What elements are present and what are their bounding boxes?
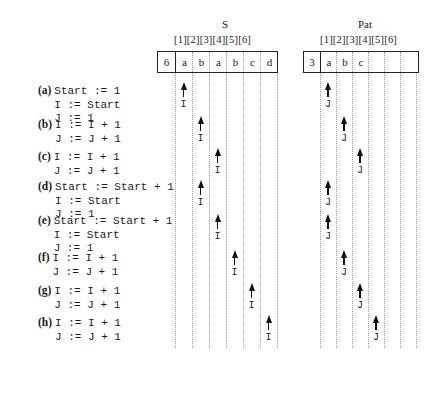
- arrow-up-icon: [373, 315, 379, 323]
- j-pointer-label: J: [370, 333, 382, 343]
- step-tag: (h): [38, 316, 55, 328]
- step-line: (h) J := J + 1: [38, 330, 121, 344]
- s-char-6: d: [261, 52, 278, 72]
- pat-char-1: a: [321, 52, 337, 72]
- code-line: I := I + 1: [54, 285, 120, 297]
- arrow-up-icon: [357, 148, 363, 156]
- i-pointer-label: I: [212, 232, 224, 242]
- s-guide-2: [209, 73, 210, 348]
- step-tag: (g): [38, 284, 54, 296]
- i-pointer: I: [195, 180, 207, 208]
- cell-divider: [192, 52, 193, 72]
- step-tag: (e): [38, 214, 54, 226]
- i-pointer-label: I: [195, 134, 207, 144]
- s-title: S: [200, 18, 250, 30]
- arrow-shaft: [183, 90, 184, 97]
- arrow-up-icon: [341, 250, 347, 258]
- arrow-shaft: [343, 258, 344, 265]
- step-g: (g) I := I + 1(g) J := J + 1: [38, 284, 120, 311]
- code-line: I := Start: [54, 229, 120, 241]
- j-pointer-label: J: [322, 100, 334, 110]
- step-line: (e) Start := Start + 1: [38, 214, 172, 228]
- code-line: Start := Start + 1: [54, 215, 173, 227]
- cell-divider: [336, 52, 337, 72]
- step-c: (c) I := I + 1(c) J := J + 1: [38, 150, 120, 177]
- s-char-4: b: [227, 52, 244, 72]
- cell-divider: [260, 52, 261, 72]
- step-line: (d) I := Start: [38, 194, 174, 208]
- code-line: I := I + 1: [52, 252, 118, 264]
- i-pointer-label: I: [229, 268, 241, 278]
- arrow-up-icon: [266, 315, 272, 323]
- pat-guide-5: [400, 73, 401, 348]
- cell-divider: [209, 52, 210, 72]
- s-indices: [1][2][3][4][5][6]: [174, 34, 251, 45]
- cell-divider: [400, 52, 401, 72]
- j-pointer: J: [354, 283, 366, 311]
- arrow-shaft: [200, 124, 201, 131]
- s-guide-6: [277, 73, 278, 348]
- code-line: J := J + 1: [54, 165, 120, 177]
- i-pointer: I: [229, 250, 241, 278]
- arrow-shaft: [200, 188, 201, 195]
- arrow-up-icon: [232, 250, 238, 258]
- arrow-up-icon: [325, 214, 331, 222]
- i-pointer-label: I: [263, 333, 275, 343]
- j-pointer: J: [322, 214, 334, 242]
- step-b: (b) I := I + 1(b) J := J + 1: [38, 118, 121, 145]
- arrow-up-icon: [215, 214, 221, 222]
- arrow-up-icon: [325, 82, 331, 90]
- j-pointer-label: J: [338, 134, 350, 144]
- step-line: (e) I := Start: [38, 228, 172, 242]
- i-pointer-label: I: [178, 100, 190, 110]
- arrow-shaft: [217, 156, 218, 163]
- pat-guide-2: [352, 73, 353, 348]
- arrow-shaft: [359, 156, 360, 163]
- code-line: I := I + 1: [54, 151, 120, 163]
- s-char-2: b: [193, 52, 210, 72]
- step-line: (c) I := I + 1: [38, 150, 120, 164]
- pat-guide-0: [320, 73, 321, 348]
- arrow-shaft: [375, 323, 376, 330]
- step-line: (c) J := J + 1: [38, 164, 120, 178]
- step-line: (a) Start := 1: [38, 84, 120, 98]
- code-line: I := Start: [55, 195, 121, 207]
- pat-guide-1: [336, 73, 337, 348]
- s-guide-3: [226, 73, 227, 348]
- cell-divider: [368, 52, 369, 72]
- s-guide-1: [192, 73, 193, 348]
- i-pointer: I: [178, 82, 190, 110]
- code-line: I := Start: [54, 99, 120, 111]
- i-pointer-label: I: [246, 301, 258, 311]
- arrow-shaft: [327, 188, 328, 195]
- arrow-up-icon: [215, 148, 221, 156]
- arrow-up-icon: [341, 116, 347, 124]
- i-pointer-label: I: [212, 166, 224, 176]
- i-pointer: I: [212, 148, 224, 176]
- step-tag: (c): [38, 150, 54, 162]
- j-pointer-label: J: [354, 301, 366, 311]
- s-char-1: a: [176, 52, 193, 72]
- cell-divider: [352, 52, 353, 72]
- j-pointer-label: J: [322, 198, 334, 208]
- arrow-up-icon: [198, 180, 204, 188]
- step-tag: (d): [38, 180, 55, 192]
- code-line: J := J + 1: [52, 266, 118, 278]
- arrow-shaft: [327, 222, 328, 229]
- step-line: (f) I := I + 1: [38, 251, 118, 265]
- arrow-shaft: [327, 90, 328, 97]
- code-line: Start := 1: [54, 85, 120, 97]
- pat-guide-3: [368, 73, 369, 348]
- code-line: Start := Start + 1: [55, 181, 174, 193]
- code-line: J := J + 1: [55, 133, 121, 145]
- arrow-up-icon: [198, 116, 204, 124]
- s-guide-5: [260, 73, 261, 348]
- step-line: (a) I := Start: [38, 98, 120, 112]
- code-line: J := J + 1: [54, 299, 120, 311]
- step-line: (b) J := J + 1: [38, 132, 121, 146]
- arrow-shaft: [251, 291, 252, 298]
- pat-title: Pat: [330, 18, 400, 30]
- cell-divider: [226, 52, 227, 72]
- pat-char-3: c: [353, 52, 369, 72]
- arrow-shaft: [268, 323, 269, 330]
